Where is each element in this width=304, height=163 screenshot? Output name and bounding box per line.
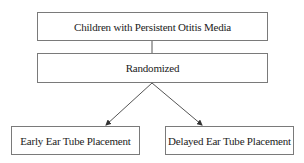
node-population-label: Children with Persistent Otitis Media bbox=[74, 21, 231, 33]
node-early-ear-tube: Early Ear Tube Placement bbox=[11, 126, 140, 155]
node-early-label: Early Ear Tube Placement bbox=[20, 135, 130, 147]
node-delayed-ear-tube: Delayed Ear Tube Placement bbox=[165, 126, 294, 155]
node-population: Children with Persistent Otitis Media bbox=[37, 12, 268, 41]
node-randomized-label: Randomized bbox=[126, 62, 180, 74]
node-randomized: Randomized bbox=[37, 53, 268, 83]
node-delayed-label: Delayed Ear Tube Placement bbox=[168, 135, 291, 147]
arrow-to-early bbox=[106, 83, 152, 125]
arrow-to-delayed bbox=[152, 83, 202, 125]
